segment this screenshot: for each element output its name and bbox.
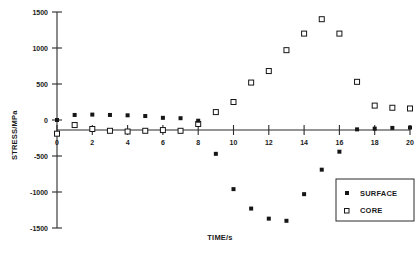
core-data-series (55, 17, 413, 136)
x-axis-title: TIME/s (207, 233, 232, 242)
x-tick-label: 10 (230, 139, 238, 146)
data-point (302, 192, 306, 196)
legend: SURFACE CORE (336, 179, 414, 221)
x-tick-label: 6 (161, 139, 165, 146)
data-point (160, 128, 165, 133)
data-point (196, 119, 200, 123)
x-tick-label: 16 (336, 139, 344, 146)
data-point (107, 128, 112, 133)
chart-canvas: -1500-1000-500050010001500 STRESS/MPa 02… (0, 0, 420, 255)
x-tick-label: 12 (265, 139, 273, 146)
x-tick-label: 8 (196, 139, 200, 146)
data-point (337, 150, 341, 154)
data-point (213, 110, 218, 115)
data-point (372, 103, 377, 108)
data-point (232, 187, 236, 191)
legend-label-surface: SURFACE (360, 189, 397, 198)
data-point (55, 118, 59, 122)
data-point (214, 152, 218, 156)
y-tick-label: 500 (36, 81, 48, 88)
legend-label-core: CORE (360, 206, 382, 215)
y-axis-group: -1500-1000-500050010001500 STRESS/MPa (10, 9, 62, 232)
data-point (178, 128, 183, 133)
data-point (355, 79, 360, 84)
data-point (319, 17, 324, 22)
data-point (284, 48, 289, 53)
x-tick-label: 4 (126, 139, 130, 146)
y-tick-label: 0 (44, 117, 48, 124)
data-point (390, 105, 395, 110)
stress-vs-time-scatter-chart: -1500-1000-500050010001500 STRESS/MPa 02… (0, 0, 420, 255)
legend-marker-surface (345, 191, 349, 195)
data-point (249, 80, 254, 85)
data-point (126, 113, 130, 117)
y-tick-label: -1000 (30, 189, 48, 196)
data-point (284, 219, 288, 223)
x-tick-label: 2 (90, 139, 94, 146)
data-point (320, 168, 324, 172)
data-point (90, 127, 95, 132)
data-point (90, 113, 94, 117)
data-point (390, 126, 394, 130)
y-tick-label: 1500 (32, 9, 48, 16)
data-point (249, 207, 253, 211)
data-point (408, 126, 412, 130)
x-axis-tick-labels: 02468101214161820 (55, 139, 414, 146)
data-point (143, 114, 147, 118)
data-point (266, 69, 271, 74)
x-tick-label: 20 (406, 139, 414, 146)
data-point (72, 123, 77, 128)
data-point (337, 31, 342, 36)
y-tick-label: -1500 (30, 225, 48, 232)
data-point (231, 100, 236, 105)
data-point (408, 106, 413, 111)
data-point (55, 131, 60, 136)
x-tick-label: 18 (371, 139, 379, 146)
data-point (108, 113, 112, 117)
data-point (267, 217, 271, 221)
y-axis-tick-labels: -1500-1000-500050010001500 (30, 9, 48, 232)
data-point (355, 127, 359, 131)
y-axis-title: STRESS/MPa (10, 110, 19, 160)
data-point (302, 31, 307, 36)
legend-marker-core (345, 209, 350, 214)
y-tick-label: 1000 (32, 45, 48, 52)
data-point (125, 129, 130, 134)
data-point (179, 116, 183, 120)
data-point (73, 113, 77, 117)
x-tick-label: 14 (300, 139, 308, 146)
y-tick-label: -500 (34, 153, 48, 160)
data-point (161, 116, 165, 120)
x-tick-label: 0 (55, 139, 59, 146)
data-point (373, 127, 377, 131)
data-point (143, 128, 148, 133)
